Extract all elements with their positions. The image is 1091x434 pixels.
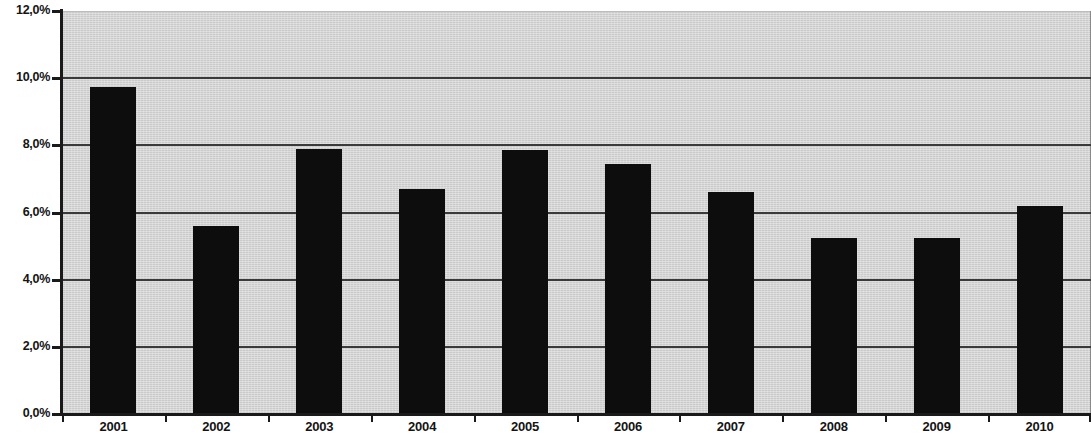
y-axis-tick-label: 6,0% [0,205,50,219]
x-axis-tick-label: 2009 [885,419,988,434]
y-axis-tick [52,212,62,215]
bar [708,192,754,414]
y-axis-tick [52,10,62,13]
y-axis-tick-label: 12,0% [0,3,50,17]
bar [296,149,342,414]
bar [811,238,857,414]
y-axis-tick-label: 0,0% [0,406,50,420]
bar [1017,206,1063,414]
y-axis-tick-label: 10,0% [0,70,50,84]
x-axis-tick-label: 2003 [268,419,371,434]
bar-chart: 0,0%2,0%4,0%6,0%8,0%10,0%12,0% 200120022… [0,0,1091,434]
y-axis-tick-label: 8,0% [0,137,50,151]
bar [605,164,651,414]
x-axis-tick-label: 2005 [474,419,577,434]
y-axis-tick-label: 4,0% [0,272,50,286]
x-axis-tick-label: 2007 [679,419,782,434]
gridline [62,77,1091,79]
bar [914,238,960,414]
x-axis-tick-label: 2004 [371,419,474,434]
x-axis-tick-label: 2001 [62,419,165,434]
x-axis-tick-label: 2002 [165,419,268,434]
gridline [62,144,1091,146]
y-axis-tick [52,144,62,147]
y-axis-tick-label: 2,0% [0,339,50,353]
plot-area [62,11,1091,414]
x-axis-tick-label: 2010 [988,419,1091,434]
y-axis-tick [52,279,62,282]
y-axis-tick [52,77,62,80]
bar [193,226,239,414]
bar [90,87,136,414]
y-axis-tick [52,346,62,349]
x-axis-line [60,413,1091,416]
y-axis-tick [52,413,62,416]
x-axis-tick-label: 2006 [577,419,680,434]
gridline [62,212,1091,214]
bar [502,150,548,414]
x-axis-tick-label: 2008 [782,419,885,434]
plot-top-border [62,11,1091,12]
bar [399,189,445,414]
